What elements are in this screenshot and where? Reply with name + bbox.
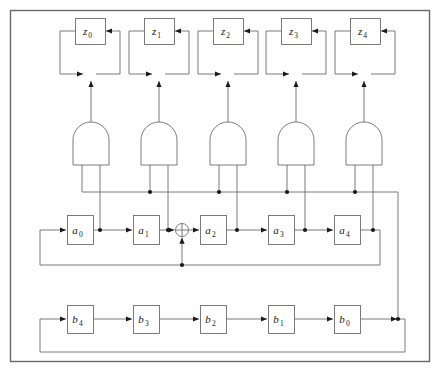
register-cell-a2: a2	[201, 216, 227, 245]
dot-a1-tap	[166, 228, 170, 232]
register-subscript-b4: 4	[79, 319, 83, 328]
and-gate-0	[73, 122, 109, 165]
register-subscript-a3: 3	[280, 230, 284, 239]
register-subscript-b3: 3	[145, 319, 149, 328]
z-output-path-z3	[266, 31, 281, 74]
dot-xor-a-feed	[180, 263, 184, 267]
register-cell-z3: z3	[282, 19, 312, 45]
register-subscript-z0: 0	[88, 31, 92, 40]
register-subscript-b2: 2	[212, 319, 216, 328]
register-cell-z0: z0	[76, 19, 106, 45]
register-cell-a0: a0	[68, 216, 94, 245]
register-cell-b2: b2	[201, 306, 227, 334]
register-cell-a4: a4	[335, 216, 361, 245]
z-output-path-z0	[60, 31, 75, 74]
register-subscript-a1: 1	[145, 230, 149, 239]
register-subscript-b0: 0	[346, 319, 350, 328]
dot-a4-tap	[371, 228, 375, 232]
z-output-path-z2	[198, 31, 213, 74]
register-cell-a3: a3	[269, 216, 295, 245]
register-subscript-a0: 0	[79, 230, 83, 239]
circuit-canvas: z0z1z2z3z4a0a1a2a3a4b4b3b2b1b0	[0, 0, 442, 375]
dot-and-bus-3	[285, 190, 289, 194]
dot-and-bus-1	[148, 190, 152, 194]
wire-layer	[40, 31, 405, 352]
junction-dot-layer	[98, 190, 400, 321]
and-gate-1	[141, 122, 177, 165]
xor-a-feedback	[176, 224, 189, 237]
register-subscript-z3: 3	[294, 31, 298, 40]
z-output-path-z1	[129, 31, 144, 74]
register-subscript-a4: 4	[346, 230, 350, 239]
dot-a0-tap	[98, 228, 102, 232]
register-cell-z2: z2	[214, 19, 244, 45]
and-gate-2	[210, 122, 246, 165]
register-cell-a1: a1	[134, 216, 160, 245]
register-cell-b0: b0	[335, 306, 361, 334]
dot-and-bus-2	[217, 190, 221, 194]
dot-a3-tap	[303, 228, 307, 232]
register-cell-b1: b1	[269, 306, 295, 334]
register-cell-z4: z4	[351, 19, 381, 45]
dot-b-bus-right	[396, 317, 400, 321]
register-subscript-z1: 1	[157, 31, 161, 40]
dot-and-bus-4	[353, 190, 357, 194]
dot-a2-tap	[235, 228, 239, 232]
register-subscript-z4: 4	[363, 31, 367, 40]
register-cell-b4: b4	[68, 306, 94, 334]
register-layer: z0z1z2z3z4a0a1a2a3a4b4b3b2b1b0	[68, 19, 381, 334]
register-cell-b3: b3	[134, 306, 160, 334]
register-cell-z1: z1	[145, 19, 175, 45]
and-gate-3	[278, 122, 314, 165]
z-output-path-z4	[335, 31, 350, 74]
register-subscript-z2: 2	[226, 31, 230, 40]
and-gate-4	[346, 122, 382, 165]
register-subscript-b1: 1	[280, 319, 284, 328]
circuit-diagram-figure: z0z1z2z3z4a0a1a2a3a4b4b3b2b1b0	[0, 0, 442, 375]
register-subscript-a2: 2	[212, 230, 216, 239]
